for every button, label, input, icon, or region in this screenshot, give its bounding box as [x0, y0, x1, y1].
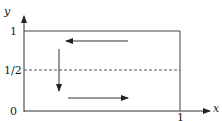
y-axis-label: y	[3, 5, 11, 18]
y-tick-half: 1/2	[4, 64, 22, 77]
y-tick-1: 1	[10, 25, 17, 38]
x-axis-label: x	[213, 102, 220, 115]
y-tick-0: 0	[10, 105, 17, 118]
flow-diagram: y 1 1/2 0 1 x	[0, 0, 222, 121]
x-tick-1: 1	[177, 111, 184, 121]
